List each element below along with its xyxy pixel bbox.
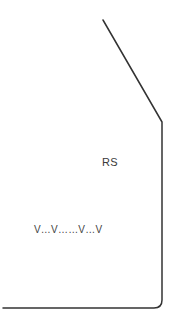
diagram-outline [0,0,180,318]
outline-path [3,20,162,308]
region-label: RS [102,156,118,168]
marks-row: V…V……V…V [34,224,102,235]
